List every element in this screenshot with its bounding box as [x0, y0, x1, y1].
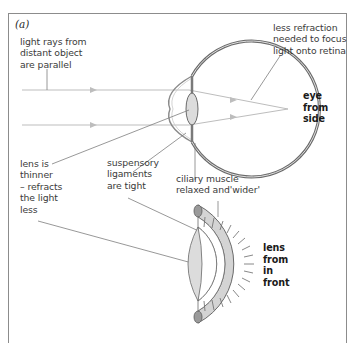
- label-light-rays: light rays from distant object are paral…: [20, 36, 87, 70]
- label-lens-thinner: lens is thinner – refracts the light les…: [20, 158, 62, 215]
- lens-front: [188, 205, 254, 323]
- ray-arrow-icons: [90, 87, 237, 128]
- label-suspensory-ligaments: suspensory ligaments are tight: [107, 157, 159, 191]
- label-eye-from-side: eye from side: [303, 90, 328, 125]
- label-ciliary-muscle: ciliary muscle relaxed and'wider': [176, 173, 260, 196]
- label-less-refraction: less refraction needed to focus light on…: [273, 22, 346, 56]
- leader-lines: [38, 56, 280, 263]
- light-rays: [22, 90, 288, 125]
- label-lens-from-front: lens from in front: [263, 242, 289, 288]
- lens-side: [186, 93, 198, 125]
